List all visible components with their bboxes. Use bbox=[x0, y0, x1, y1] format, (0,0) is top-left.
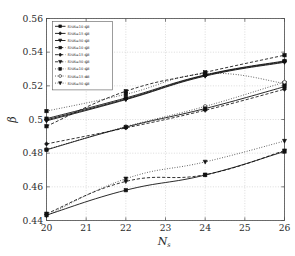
x-tick-label: 22 bbox=[120, 222, 132, 233]
y-tick-label: 0.52 bbox=[23, 80, 43, 91]
data-point-marker bbox=[283, 85, 286, 88]
x-tick-label: 21 bbox=[80, 222, 92, 233]
data-point-marker bbox=[59, 25, 62, 28]
data-point-marker bbox=[283, 53, 286, 56]
x-axis-label-base: N bbox=[157, 235, 168, 248]
data-point-marker bbox=[124, 125, 127, 128]
y-tick-label: 0.56 bbox=[23, 13, 44, 24]
data-point-marker bbox=[203, 173, 206, 176]
chart-figure: 20212223242526 0.440.460.480.50.520.540.… bbox=[0, 0, 295, 256]
data-point-marker bbox=[283, 150, 286, 153]
chart-legend[interactable]: SNR=10 dB1SNR=15 dB1SNR=50 dB1SNR=10 dB2… bbox=[53, 22, 113, 90]
data-point-marker bbox=[59, 46, 62, 49]
data-point-marker bbox=[59, 68, 62, 71]
data-point-marker bbox=[45, 109, 48, 112]
y-tick-label: 0.44 bbox=[23, 215, 44, 226]
y-tick-label: 0.54 bbox=[23, 46, 44, 57]
data-point-marker bbox=[59, 75, 62, 78]
data-point-marker bbox=[124, 189, 127, 192]
chart-background bbox=[0, 0, 295, 256]
data-point-marker bbox=[203, 107, 206, 110]
x-tick-label: 26 bbox=[279, 222, 291, 233]
y-axis-label: β bbox=[6, 116, 19, 123]
y-tick-label: 0.5 bbox=[28, 114, 43, 125]
x-tick-label: 24 bbox=[199, 222, 211, 233]
x-tick-label: 25 bbox=[239, 222, 251, 233]
chart-svg: 20212223242526 0.440.460.480.50.520.540.… bbox=[0, 0, 295, 256]
data-point-marker bbox=[45, 148, 48, 151]
data-point-marker bbox=[203, 72, 206, 75]
data-point-marker bbox=[45, 125, 48, 128]
data-point-marker bbox=[45, 213, 48, 216]
y-tick-label: 0.46 bbox=[23, 181, 44, 192]
x-tick-label: 23 bbox=[160, 222, 172, 233]
data-point-marker bbox=[283, 80, 287, 84]
data-point-marker bbox=[124, 93, 127, 96]
y-tick-label: 0.48 bbox=[23, 147, 44, 158]
